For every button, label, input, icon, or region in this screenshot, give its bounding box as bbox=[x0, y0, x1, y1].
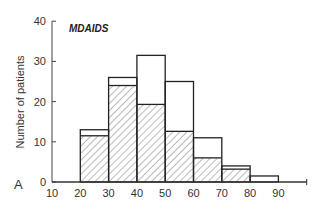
y-axis-label: Number of patients bbox=[14, 55, 26, 148]
x-tick-label: 90 bbox=[272, 187, 284, 199]
bar-60-70 bbox=[194, 138, 222, 182]
x-tick-label: 70 bbox=[216, 187, 228, 199]
bars-group bbox=[80, 55, 278, 182]
panel-label: A bbox=[14, 177, 23, 192]
x-tick-label: 40 bbox=[131, 187, 143, 199]
x-tick-label: 20 bbox=[74, 187, 86, 199]
y-tick-label: 10 bbox=[34, 136, 46, 148]
x-tick-label: 30 bbox=[102, 187, 114, 199]
bar-30-40 bbox=[109, 77, 137, 182]
x-tick-label: 60 bbox=[187, 187, 199, 199]
bar-20-30 bbox=[80, 130, 108, 182]
x-tick-label: 10 bbox=[46, 187, 58, 199]
chart-title: MDAIDS bbox=[69, 23, 109, 34]
y-tick-label: 40 bbox=[34, 15, 46, 27]
x-tick-label: 80 bbox=[244, 187, 256, 199]
bar-40-50 bbox=[137, 55, 165, 182]
x-tick-label: 50 bbox=[159, 187, 171, 199]
histogram-chart: 010203040102030405060708090 MDAIDS Numbe… bbox=[0, 0, 326, 209]
y-tick-label: 30 bbox=[34, 55, 46, 67]
bar-70-80 bbox=[222, 166, 250, 182]
bar-50-60 bbox=[165, 82, 193, 183]
y-tick-label: 20 bbox=[34, 96, 46, 108]
bar-80-90 bbox=[250, 176, 278, 182]
